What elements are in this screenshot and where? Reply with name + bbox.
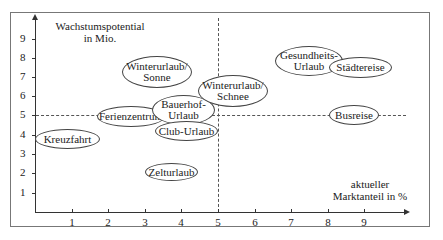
x-tick-label: 8 [322,216,334,228]
bubble-club-urlaub: Club-Urlaub [155,121,218,141]
y-tick-label: 5 [20,109,26,120]
bubble-staedtereise: Städtereise [329,57,392,78]
bubble-label: Städtereise [336,62,384,73]
bubble-label: Club-Urlaub [159,126,215,137]
x-tick [328,209,329,213]
x-tick-label: 5 [212,216,224,228]
x-tick-label: 2 [102,216,114,228]
bubble-label: Zelturlaub [149,167,195,178]
x-tick [255,209,256,213]
bubble-label: Urlaub [168,110,199,121]
x-tick [291,209,292,213]
y-axis-title: Wachstumspotential in Mio. [40,20,160,44]
x-tick [108,209,109,213]
x-tick-label: 6 [249,216,261,228]
y-tick-label: 7 [20,71,26,82]
y-tick-label: 4 [20,129,26,140]
bubble-label: Urlaub [294,61,325,72]
x-tick-label: 4 [175,216,187,228]
y-tick-label: 3 [20,148,26,159]
bubble-label: Sonne [143,72,171,83]
x-axis-title-line1: aktueller [320,178,420,190]
bubble-winterurlaub-sonne: Winterurlaub/ Sonne [122,56,192,88]
y-tick-label: 1 [20,187,26,198]
x-tick-label: 9 [358,216,370,228]
x-axis-arrow-icon [404,209,410,215]
bubble-label: Busreise [335,110,373,121]
y-tick [32,58,36,59]
y-axis-arrow-icon [32,14,38,20]
y-tick [32,39,36,40]
x-tick-label: 1 [66,216,78,228]
bubble-label: Kreuzfahrt [44,134,92,145]
y-tick [32,77,36,78]
y-tick [32,173,36,174]
x-tick-label: 7 [285,216,297,228]
bubble-zelturlaub: Zelturlaub [145,163,198,181]
x-tick [145,209,146,213]
y-tick [32,96,36,97]
x-axis-title-line2: Marktanteil in % [320,190,420,202]
x-axis-title: aktueller Marktanteil in % [320,178,420,202]
bubble-winterurlaub-schnee: Winterurlaub/ Schnee [198,75,268,107]
x-tick [218,209,219,213]
y-tick-label: 6 [20,90,26,101]
y-tick-label: 9 [20,33,26,44]
y-tick [32,115,36,116]
x-tick-label: 3 [139,216,151,228]
x-tick [72,209,73,213]
y-axis-title-line2: in Mio. [40,32,160,44]
x-tick [364,209,365,213]
bubble-label: Schnee [217,91,249,102]
y-tick-label: 8 [20,52,26,63]
bubble-busreise: Busreise [329,105,379,125]
y-tick [32,154,36,155]
x-axis [35,212,405,213]
x-tick [181,209,182,213]
y-tick [32,193,36,194]
y-axis-title-line1: Wachstumspotential [40,20,160,32]
y-tick-label: 2 [20,167,26,178]
bubble-kreuzfahrt: Kreuzfahrt [35,129,100,149]
